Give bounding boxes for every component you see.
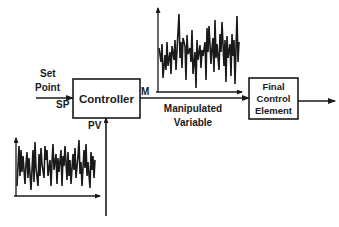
set-point-label-line1: Set (40, 68, 56, 79)
fce-label-line3: Element (255, 105, 293, 116)
manipulated-variable-label-line2: Variable (174, 117, 213, 128)
sp-label: SP (56, 99, 70, 110)
set-point-label-line2: Point (35, 82, 61, 93)
controller-label: Controller (79, 93, 134, 105)
final-control-element-block: Final Control Element (249, 78, 298, 119)
fce-label-line2: Control (257, 93, 291, 104)
manipulated-variable-label-line1: Manipulated (164, 103, 222, 114)
fce-label-line1: Final (262, 81, 284, 92)
controller-block: Controller (73, 79, 140, 118)
control-loop-diagram: Controller Final Control Element Set Poi… (0, 0, 339, 227)
pv-label: PV (88, 120, 102, 131)
m-label: M (141, 86, 149, 97)
process-variable-plot (14, 138, 100, 196)
manipulated-variable-plot (156, 8, 242, 92)
